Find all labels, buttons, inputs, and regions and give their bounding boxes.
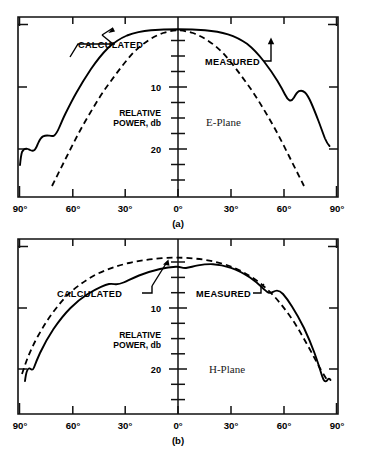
chart-a-xtick-label-4: 30°	[224, 203, 239, 214]
chart-a-ytick-label-10: 10	[151, 83, 161, 93]
chart-a-xtick-label-2: 30°	[118, 203, 133, 214]
chart-a-ylabel-line2: POWER, db	[113, 118, 161, 128]
chart-b-right-ticks	[328, 247, 338, 370]
chart-a-curve-measured	[20, 29, 330, 165]
chart-b-ylabel-line1: RELATIVE	[119, 330, 161, 340]
chart-a-ytick-label-20: 20	[151, 145, 161, 155]
chart-b-ytick-label-20: 20	[151, 365, 161, 375]
chart-a-right-ticks	[328, 25, 338, 150]
chart-a-xtick-label-0: 90°	[13, 203, 28, 214]
chart-b-caption: (b)	[172, 435, 184, 446]
chart-a-xtick-label-5: 60°	[277, 203, 292, 214]
chart-b-ylabel-line2: POWER, db	[113, 340, 161, 350]
chart-b-ytick-label-10: 10	[151, 304, 161, 314]
chart-b-annotation-calculated: CALCULATED	[57, 289, 122, 299]
chart-a-measured-arrowhead	[268, 38, 274, 45]
chart-b-xtick-label-1: 60°	[66, 420, 81, 431]
chart-b-xtick-label-5: 60°	[277, 420, 292, 431]
chart-b-annotation-measured: MEASURED	[196, 289, 251, 299]
chart-a-plane-label: E-Plane	[206, 116, 241, 128]
chart-a-annotation-measured: MEASURED	[205, 57, 260, 67]
antenna-pattern-figure: CALCULATED MEASURED 10 20 RELATIVE POWER…	[0, 0, 365, 464]
chart-a-xtick-label-6: 90°	[330, 203, 345, 214]
chart-b-xtick-label-3: 0°	[173, 420, 182, 431]
chart-panel-a: CALCULATED MEASURED 10 20 RELATIVE POWER…	[0, 0, 365, 232]
chart-a-xtick-label-3: 0°	[173, 203, 182, 214]
chart-a-left-ticks	[18, 25, 28, 150]
chart-b-xtick-label-2: 30°	[118, 420, 133, 431]
chart-b-curve-calculated	[22, 258, 328, 381]
chart-b-svg: CALCULATED MEASURED 10 20 RELATIVE POWER…	[0, 226, 365, 464]
chart-b-calculated-leader	[142, 260, 170, 293]
chart-a-annotation-calculated: CALCULATED	[78, 40, 143, 50]
chart-b-xtick-label-4: 30°	[224, 420, 239, 431]
chart-panel-b: CALCULATED MEASURED 10 20 RELATIVE POWER…	[0, 226, 365, 464]
chart-a-xtick-label-1: 60°	[66, 203, 81, 214]
chart-b-xtick-label-6: 90°	[330, 420, 345, 431]
chart-b-left-ticks	[18, 247, 28, 370]
chart-b-calculated-arrowhead	[163, 260, 170, 266]
chart-a-ylabel-line1: RELATIVE	[119, 108, 161, 118]
chart-a-svg: CALCULATED MEASURED 10 20 RELATIVE POWER…	[0, 0, 365, 232]
chart-b-xtick-label-0: 90°	[13, 420, 28, 431]
chart-b-plane-label: H-Plane	[209, 363, 245, 375]
chart-a-measured-leader	[264, 38, 274, 62]
